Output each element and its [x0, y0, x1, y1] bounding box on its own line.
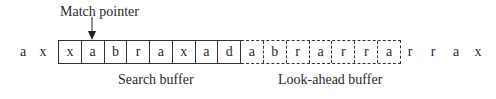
leading-char: x — [33, 43, 53, 61]
lookahead-buffer: a b r a r r a — [241, 40, 401, 64]
trailing-char: r — [400, 43, 420, 61]
lookahead-buffer-cell: a — [310, 41, 333, 63]
lookahead-buffer-cell: a — [241, 41, 264, 63]
search-buffer: x a b r a x a d — [58, 40, 241, 64]
search-buffer-cell: d — [218, 41, 240, 63]
lookahead-buffer-cell: r — [332, 41, 355, 63]
trailing-char: r — [423, 43, 443, 61]
lookahead-buffer-cell: b — [264, 41, 287, 63]
lz77-sliding-window-diagram: Match pointer a x x a b r a x a d a b r … — [0, 0, 496, 99]
search-buffer-cell: b — [105, 41, 128, 63]
lookahead-buffer-cell: a — [378, 41, 400, 63]
trailing-char: x — [468, 43, 488, 61]
search-buffer-cell: x — [59, 41, 82, 63]
lookahead-buffer-cell: r — [287, 41, 310, 63]
search-buffer-cell: a — [82, 41, 105, 63]
search-buffer-cell: x — [173, 41, 196, 63]
lookahead-buffer-cell: r — [355, 41, 378, 63]
lookahead-buffer-label: Look-ahead buffer — [278, 72, 382, 88]
match-pointer-label: Match pointer — [60, 4, 139, 20]
search-buffer-cell: a — [150, 41, 173, 63]
match-pointer-arrow-icon — [86, 17, 98, 41]
leading-char: a — [13, 43, 33, 61]
trailing-char: a — [446, 43, 466, 61]
search-buffer-cell: r — [127, 41, 150, 63]
search-buffer-cell: a — [196, 41, 219, 63]
search-buffer-label: Search buffer — [118, 72, 194, 88]
